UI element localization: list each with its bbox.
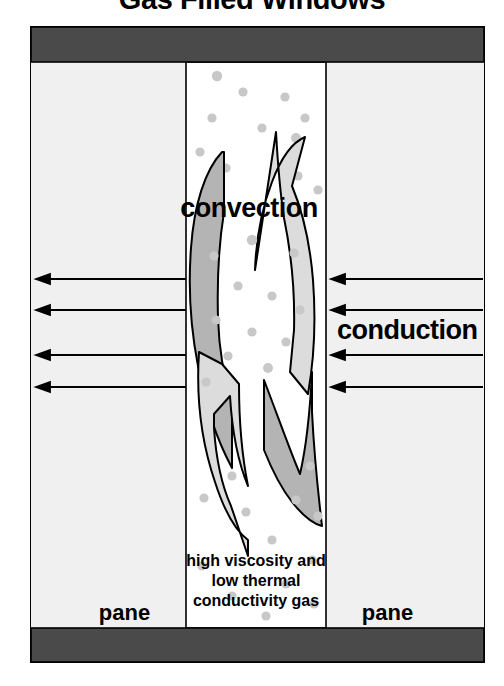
gas-molecule	[247, 235, 257, 245]
gas-molecule	[241, 507, 250, 516]
gas-molecule	[261, 611, 270, 620]
gas-molecule	[207, 113, 216, 122]
gas-molecule	[300, 113, 309, 122]
gas-molecule	[295, 305, 304, 314]
gas-molecule	[201, 377, 210, 386]
gas-molecule	[267, 535, 276, 544]
gas-molecule	[280, 92, 289, 101]
gas-molecule	[233, 281, 242, 290]
gas-molecule	[195, 147, 204, 156]
frame-bar-top	[31, 27, 484, 62]
label-convection: convection	[0, 193, 501, 224]
gas-molecule	[257, 123, 266, 132]
gas-molecule	[238, 87, 247, 96]
gas-molecule	[281, 337, 290, 346]
gas-caption-line-2: low thermal	[186, 571, 326, 591]
gas-molecule	[209, 251, 218, 260]
frame-bar-bottom	[31, 628, 484, 662]
gas-molecule	[211, 315, 220, 324]
label-pane-right: pane	[340, 600, 435, 626]
gas-molecule	[313, 511, 322, 520]
gas-caption: high viscosity and low thermal conductiv…	[186, 551, 326, 611]
gas-molecule	[247, 327, 256, 336]
gas-molecule	[263, 363, 273, 373]
gas-molecule	[305, 461, 314, 470]
gas-molecule	[267, 291, 276, 300]
gas-molecule	[223, 351, 232, 360]
gas-caption-line-3: conductivity gas	[186, 591, 326, 611]
gas-molecule	[227, 471, 236, 480]
gas-molecule	[212, 71, 222, 81]
gas-molecule	[199, 493, 208, 502]
label-conduction: conduction	[337, 315, 477, 346]
diagram-canvas: Gas Filled Windows	[0, 0, 504, 686]
gas-caption-line-1: high viscosity and	[186, 551, 326, 571]
gas-molecule	[291, 495, 300, 504]
label-pane-left: pane	[77, 600, 172, 626]
pane-left-region	[31, 62, 186, 628]
gas-molecule	[289, 248, 298, 257]
